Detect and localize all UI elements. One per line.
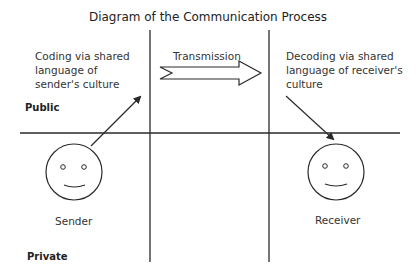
coding-text-line: Coding via shared — [35, 49, 130, 63]
public-label: Public — [25, 101, 59, 115]
sender-coding-text: Coding via shared language of sender's c… — [35, 49, 130, 91]
coding-text-line: language of — [35, 63, 130, 77]
private-label: Private — [27, 250, 68, 264]
receiver-label: Receiver — [315, 213, 360, 227]
receiver-decoding-text: Decoding via shared language of receiver… — [286, 49, 403, 91]
coding-arrow-icon — [91, 97, 140, 146]
sender-face-icon — [46, 144, 102, 200]
communication-process-diagram: Diagram of the Communication Process — [0, 0, 416, 271]
decoding-text-line: language of receiver's — [286, 63, 403, 77]
diagram-lines — [0, 0, 416, 271]
decoding-text-line: Decoding via shared — [286, 49, 403, 63]
sender-label: Sender — [55, 214, 92, 228]
transmission-arrow-icon — [160, 61, 261, 85]
decoding-text-line: culture — [286, 77, 403, 91]
coding-text-line: sender's culture — [35, 77, 130, 91]
transmission-label: Transmission — [173, 49, 241, 63]
receiver-face-icon — [308, 144, 364, 200]
